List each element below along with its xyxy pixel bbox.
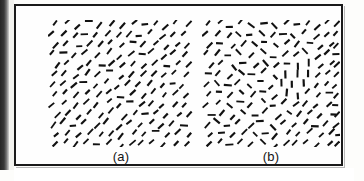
texture-segment [294, 52, 299, 57]
texture-segment [154, 21, 158, 25]
texture-segment [77, 65, 83, 70]
texture-segment [108, 40, 112, 44]
texture-segment [262, 133, 269, 134]
texture-segment [293, 102, 299, 107]
texture-segment [287, 130, 291, 135]
texture-segment [334, 62, 340, 67]
texture-segment [71, 83, 77, 88]
texture-segment [314, 34, 320, 39]
texture-segment [109, 60, 115, 66]
texture-segment [164, 45, 169, 50]
texture-segment [275, 114, 281, 120]
texture-segment [60, 118, 65, 124]
texture-segment [97, 91, 102, 97]
texture-segment [286, 89, 287, 97]
texture-segment [158, 124, 164, 129]
texture-segment [73, 75, 79, 79]
texture-segment [55, 112, 61, 118]
texture-segment [260, 23, 268, 24]
texture-segment [314, 24, 320, 30]
texture-segment [325, 70, 330, 74]
texture-segment [99, 132, 103, 137]
texture-segment [133, 110, 137, 115]
texture-segment [85, 69, 89, 75]
texture-segment [175, 129, 181, 134]
texture-segment [138, 140, 143, 145]
texture-segment [284, 20, 289, 24]
texture-segment [270, 124, 276, 130]
texture-segment [247, 84, 251, 88]
texture-segment [117, 55, 122, 60]
texture-segment [119, 75, 124, 79]
texture-segment [120, 23, 125, 29]
texture-segment [106, 139, 111, 144]
texture-segment [98, 41, 103, 47]
texture-segment [248, 23, 255, 28]
texture-segment [209, 63, 214, 69]
texture-segment [325, 81, 329, 85]
texture-segment [49, 103, 55, 108]
texture-segment [140, 41, 145, 47]
texture-segment [284, 140, 290, 146]
texture-segment [163, 114, 168, 119]
texture-segment [182, 52, 187, 57]
texture-segment [76, 133, 81, 138]
texture-segment [303, 140, 308, 144]
texture-segment [225, 144, 233, 145]
texture-segment [172, 70, 176, 74]
texture-segment [274, 43, 279, 47]
texture-segment [119, 144, 123, 147]
texture-segment [247, 103, 252, 108]
texture-segment [160, 34, 166, 39]
texture-segment [274, 63, 279, 68]
texture-segment [333, 123, 339, 128]
texture-segment [81, 50, 87, 55]
texture-segment [216, 100, 220, 104]
texture-segment [161, 73, 166, 77]
texture-segment [334, 43, 339, 48]
texture-field-a [48, 20, 194, 147]
texture-segment [318, 45, 323, 49]
texture-segment [186, 62, 192, 68]
texture-segment [147, 80, 152, 86]
texture-segment [125, 80, 130, 86]
texture-segment [259, 31, 265, 36]
texture-segment [176, 61, 180, 65]
texture-segment [214, 80, 219, 86]
texture-segment [151, 88, 155, 93]
texture-segment [139, 54, 146, 55]
texture-segment [151, 71, 156, 77]
texture-segment [88, 129, 93, 135]
texture-segment [160, 83, 164, 87]
texture-segment [95, 72, 101, 77]
texture-segment [118, 133, 123, 140]
texture-segment [173, 20, 178, 24]
texture-segment [294, 24, 301, 25]
texture-segment [333, 31, 337, 36]
texture-segment [248, 123, 254, 128]
texture-segment [215, 70, 220, 75]
texture-segment [154, 41, 159, 45]
texture-segment [50, 82, 55, 87]
texture-panel-b [202, 20, 340, 147]
texture-segment [120, 63, 125, 68]
texture-segment [205, 122, 210, 128]
texture-segment [273, 144, 277, 147]
texture-segment [184, 72, 189, 77]
texture-segment [306, 21, 310, 26]
texture-segment [287, 111, 292, 115]
texture-segment [163, 66, 170, 67]
texture-segment [315, 55, 321, 60]
texture-segment [169, 121, 174, 126]
texture-segment [52, 71, 57, 76]
texture-segment [224, 85, 232, 86]
texture-segment [328, 141, 333, 145]
texture-segment [183, 93, 188, 98]
texture-segment [48, 31, 54, 36]
texture-segment [94, 123, 100, 129]
texture-segment [262, 108, 267, 114]
figure-root: (a) (b) [0, 0, 364, 181]
texture-segment [108, 107, 113, 113]
texture-segment [254, 63, 259, 68]
texture-segment [93, 84, 97, 88]
